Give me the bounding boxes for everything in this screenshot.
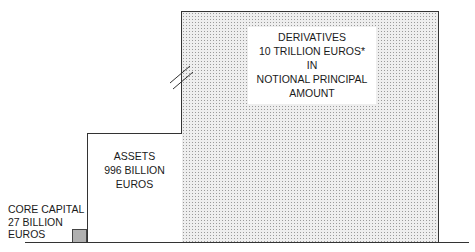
- assets-title: ASSETS: [87, 149, 182, 163]
- derivatives-title: DERIVATIVES: [248, 30, 376, 44]
- derivatives-value: 10 TRILLION EUROS*: [248, 44, 376, 58]
- core-capital-value: 27 BILLION: [8, 216, 84, 229]
- core-capital-unit: EUROS: [8, 228, 84, 241]
- baseline: [25, 242, 469, 243]
- derivatives-measure: NOTIONAL PRINCIPAL: [248, 72, 376, 86]
- core-capital-label: CORE CAPITAL 27 BILLION EUROS: [8, 203, 84, 241]
- assets-value: 996 BILLION: [87, 163, 182, 177]
- derivatives-measure-2: AMOUNT: [248, 86, 376, 100]
- core-capital-title: CORE CAPITAL: [8, 203, 84, 216]
- derivatives-in: IN: [248, 58, 376, 72]
- axis-break-icon: [168, 63, 198, 93]
- derivatives-label: DERIVATIVES 10 TRILLION EUROS* IN NOTION…: [248, 27, 376, 104]
- assets-unit: EUROS: [87, 177, 182, 191]
- assets-label: ASSETS 996 BILLION EUROS: [87, 149, 182, 191]
